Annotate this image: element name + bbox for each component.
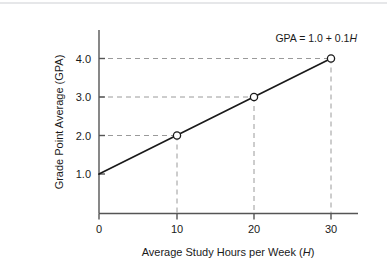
equation-annotation: GPA = 1.0 + 0.1H bbox=[275, 32, 357, 44]
y-axis-title: Grade Point Average (GPA) bbox=[53, 55, 65, 190]
y-tick-label-2: 2.0 bbox=[76, 130, 91, 142]
x-axis-title-symbol: H bbox=[303, 246, 311, 258]
x-tick-label-30: 30 bbox=[325, 223, 337, 235]
x-axis-title-text: Average Study Hours per Week bbox=[142, 246, 297, 258]
y-tick-label-3: 3.0 bbox=[76, 91, 91, 103]
equation-annotation-text: GPA = 1.0 + 0.1 bbox=[275, 32, 349, 44]
axes-group bbox=[99, 30, 358, 214]
y-tick-label-1: 1.0 bbox=[76, 168, 91, 180]
gpa-study-hours-chart: 4.0 3.0 2.0 1.0 0 10 20 30 GPA = 1.0 + 0… bbox=[0, 0, 387, 277]
gpa-trend-line bbox=[99, 59, 331, 175]
x-axis-ticks bbox=[99, 214, 331, 220]
figure-container: 4.0 3.0 2.0 1.0 0 10 20 30 GPA = 1.0 + 0… bbox=[0, 0, 387, 277]
data-point-10-2[interactable] bbox=[173, 132, 180, 139]
x-tick-label-0: 0 bbox=[96, 223, 102, 235]
x-tick-label-20: 20 bbox=[248, 223, 260, 235]
y-axis-ticks bbox=[99, 59, 105, 175]
equation-annotation-symbol: H bbox=[349, 32, 357, 44]
data-point-30-4[interactable] bbox=[327, 55, 334, 62]
x-axis-title: Average Study Hours per Week (H) bbox=[142, 246, 315, 258]
x-tick-label-10: 10 bbox=[171, 223, 183, 235]
y-axis-tick-labels: 4.0 3.0 2.0 1.0 bbox=[76, 53, 91, 181]
guide-lines-group bbox=[99, 59, 331, 214]
data-point-20-3[interactable] bbox=[250, 93, 257, 100]
x-axis-tick-labels: 0 10 20 30 bbox=[96, 223, 337, 235]
y-tick-label-4: 4.0 bbox=[76, 53, 91, 65]
